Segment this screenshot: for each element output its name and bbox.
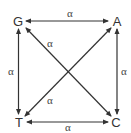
label-g-a: α [67, 7, 73, 19]
transition-diagram: G A T C α α α α α α [0, 0, 131, 133]
node-g: G [13, 14, 23, 29]
label-a-c: α [121, 65, 127, 77]
label-g-c: α [47, 37, 53, 49]
label-t-a: α [47, 94, 53, 106]
label-g-t: α [8, 65, 14, 77]
node-t: T [15, 115, 23, 130]
node-c: C [111, 115, 120, 130]
node-a: A [113, 14, 122, 29]
label-t-c: α [65, 121, 71, 133]
